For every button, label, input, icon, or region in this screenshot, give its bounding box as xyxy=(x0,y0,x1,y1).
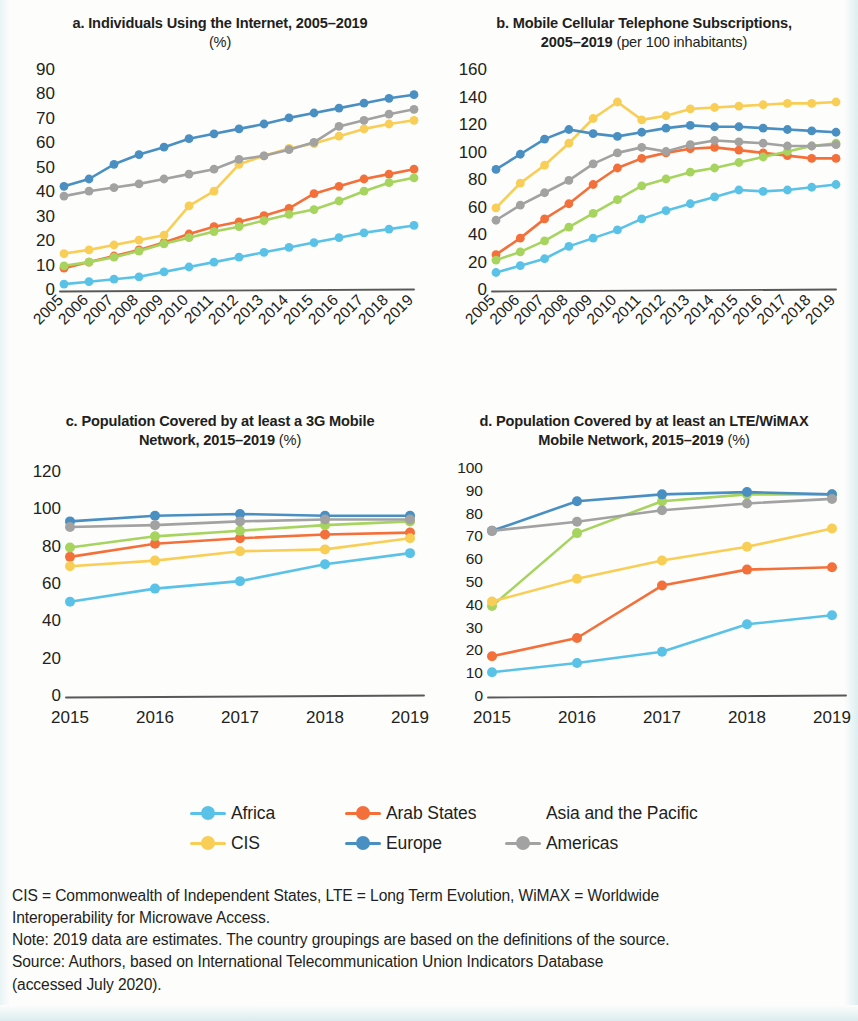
series-point-cis xyxy=(572,573,582,583)
series-point-africa xyxy=(686,199,695,208)
legend-dot-africa xyxy=(201,806,215,820)
series-point-arab_states xyxy=(734,145,743,154)
legend-item-africa[interactable]: Africa xyxy=(190,803,345,824)
chart-a-title-text: a. Individuals Using the Internet, 2005–… xyxy=(72,15,367,31)
series-point-africa xyxy=(110,274,119,283)
series-point-cis xyxy=(637,115,646,124)
y-axis-tick: 40 xyxy=(42,611,61,630)
series-point-europe xyxy=(516,149,525,158)
series-point-asia_pacific xyxy=(572,528,582,538)
series-point-africa xyxy=(235,576,245,586)
legend-item-arab-states[interactable]: Arab States xyxy=(345,803,505,824)
series-point-africa xyxy=(807,182,816,191)
series-point-asia_pacific xyxy=(335,196,344,205)
legend-item-cis[interactable]: CIS xyxy=(190,833,345,854)
series-point-asia_pacific xyxy=(637,181,646,190)
series-point-europe xyxy=(410,90,419,99)
series-point-europe xyxy=(210,129,219,138)
series-point-africa xyxy=(734,185,743,194)
legend-label-europe: Europe xyxy=(386,833,442,854)
series-point-africa xyxy=(572,658,582,668)
series-point-europe xyxy=(85,174,94,183)
series-point-europe xyxy=(60,181,69,190)
series-point-cis xyxy=(110,240,119,249)
legend-label-cis: CIS xyxy=(231,833,260,854)
series-point-asia_pacific xyxy=(516,247,525,256)
chart-d-plot: 0102030405060708090100201520162017201820… xyxy=(434,451,854,761)
series-point-cis xyxy=(410,115,419,124)
series-point-europe xyxy=(710,122,719,131)
chart-a-subtitle: (%) xyxy=(209,34,231,50)
series-point-cis xyxy=(710,103,719,112)
series-point-cis xyxy=(210,186,219,195)
series-point-europe xyxy=(310,108,319,117)
series-point-cis xyxy=(385,119,394,128)
legend-label-americas: Americas xyxy=(546,833,618,854)
chart-b-svg: 0204060801001201401602005200620072008200… xyxy=(434,53,854,373)
series-point-arab_states xyxy=(487,651,497,661)
series-point-africa xyxy=(135,272,144,281)
y-axis-tick: 20 xyxy=(466,641,484,658)
series-point-cis xyxy=(540,160,549,169)
legend-label-arab-states: Arab States xyxy=(386,803,476,824)
series-point-africa xyxy=(60,279,69,288)
y-axis-tick: 20 xyxy=(468,252,487,271)
figure-footnote: CIS = Commonwealth of Independent States… xyxy=(12,885,812,996)
chart-b-plot: 0204060801001201401602005200620072008200… xyxy=(434,53,854,373)
legend-dot-asia-pacific xyxy=(516,806,530,820)
series-point-africa xyxy=(742,619,752,629)
series-point-arab_states xyxy=(827,562,837,572)
series-point-africa xyxy=(320,559,330,569)
series-point-africa xyxy=(783,185,792,194)
series-point-africa xyxy=(759,186,768,195)
series-point-africa xyxy=(564,241,573,250)
series-point-africa xyxy=(150,583,160,593)
y-axis-tick: 80 xyxy=(468,170,487,189)
y-axis-tick: 60 xyxy=(42,574,61,593)
series-point-africa xyxy=(589,233,598,242)
legend-item-americas[interactable]: Americas xyxy=(505,833,690,854)
series-point-cis xyxy=(686,104,695,113)
series-point-europe xyxy=(783,125,792,134)
series-point-europe xyxy=(734,122,743,131)
series-point-asia_pacific xyxy=(85,257,94,266)
legend-item-europe[interactable]: Europe xyxy=(345,833,505,854)
scan-edge-bottom xyxy=(0,1005,858,1021)
series-point-americas xyxy=(310,137,319,146)
series-point-cis xyxy=(160,230,169,239)
chart-c-plot: 02040608010012020152016201720182019 xyxy=(8,451,432,761)
series-point-europe xyxy=(807,126,816,135)
legend-dot-americas xyxy=(516,836,530,850)
series-point-cis xyxy=(85,245,94,254)
chart-panel-a: a. Individuals Using the Internet, 2005–… xyxy=(8,14,432,404)
x-axis-tick: 2019 xyxy=(380,291,416,327)
series-point-arab_states xyxy=(657,580,667,590)
y-axis-tick: 100 xyxy=(33,499,61,518)
series-point-europe xyxy=(360,98,369,107)
series-point-asia_pacific xyxy=(410,173,419,182)
chart-d-svg: 0102030405060708090100201520162017201820… xyxy=(434,451,854,761)
series-point-cis xyxy=(564,138,573,147)
y-axis-tick: 80 xyxy=(36,84,55,103)
series-point-arab_states xyxy=(564,199,573,208)
series-point-arab_states xyxy=(572,633,582,643)
series-point-europe xyxy=(759,123,768,132)
series-point-africa xyxy=(310,238,319,247)
chart-b-title: b. Mobile Cellular Telephone Subscriptio… xyxy=(434,14,854,53)
footnote-line-5: (accessed July 2020). xyxy=(12,974,812,996)
chart-c-title: c. Population Covered by at least a 3G M… xyxy=(8,412,432,451)
series-point-cis xyxy=(487,596,497,606)
series-point-europe xyxy=(662,123,671,132)
series-point-asia_pacific xyxy=(734,158,743,167)
series-point-africa xyxy=(65,596,75,606)
series-point-africa xyxy=(516,261,525,270)
series-point-europe xyxy=(150,510,160,520)
y-axis-tick: 70 xyxy=(36,108,55,127)
series-point-cis xyxy=(492,203,501,212)
legend-dot-europe xyxy=(356,836,370,850)
series-point-europe xyxy=(589,129,598,138)
legend-item-asia-pacific[interactable]: Asia and the Pacific xyxy=(505,803,690,824)
series-point-americas xyxy=(572,516,582,526)
series-point-europe xyxy=(492,164,501,173)
series-point-americas xyxy=(160,174,169,183)
